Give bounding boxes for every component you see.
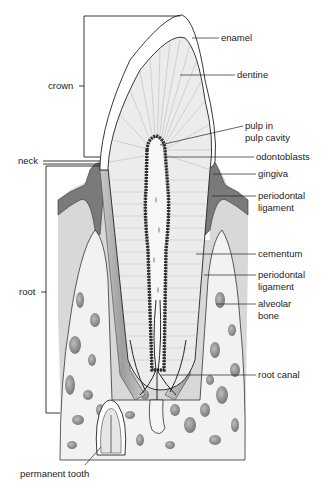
label-neck: neck (18, 155, 38, 167)
label-dentine: dentine (237, 69, 268, 81)
root-apex (149, 400, 165, 434)
label-cementum: cementum (258, 248, 302, 260)
label-pulp-line2: pulp cavity (245, 132, 290, 144)
label-pdl-lower-line2: ligament (258, 281, 294, 293)
label-alveolar-line2: bone (258, 310, 279, 322)
label-gingiva: gingiva (258, 168, 288, 180)
label-pdl-upper-line2: ligament (258, 202, 294, 214)
label-pdl-upper-line1: periodontal (258, 190, 305, 202)
label-pdl-lower-line1: periodontal (258, 269, 305, 281)
label-root-canal: root canal (258, 369, 300, 381)
label-crown: crown (48, 80, 73, 92)
tooth-diagram (0, 0, 327, 487)
label-permanent-tooth: permanent tooth (20, 468, 89, 480)
label-pulp-line1: pulp in (245, 120, 273, 132)
label-enamel: enamel (221, 32, 252, 44)
neck-bracket (43, 161, 100, 164)
label-alveolar-line1: alveolar (258, 298, 291, 310)
label-root: root (19, 286, 35, 298)
label-odontoblasts: odontoblasts (256, 151, 310, 163)
